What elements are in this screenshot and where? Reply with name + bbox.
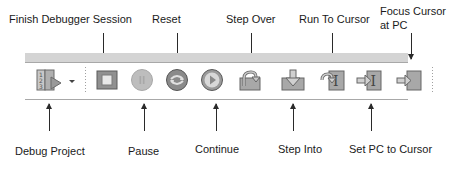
step-into-button[interactable] (280, 68, 306, 92)
label-finish-debugger-session: Finish Debugger Session (9, 13, 132, 26)
run-to-cursor-icon: I (318, 68, 346, 92)
play-icon (200, 68, 224, 92)
run-to-cursor-button[interactable]: I (318, 68, 346, 92)
label-reset: Reset (152, 13, 181, 26)
toolbar-bottom-border (25, 99, 408, 100)
reset-icon (165, 68, 189, 92)
label-continue: Continue (195, 143, 239, 156)
debug-project-button[interactable]: 1 2 3 (35, 68, 63, 92)
pause-button[interactable] (130, 68, 154, 92)
focus-cursor-icon (395, 68, 423, 92)
label-step-over: Step Over (226, 13, 276, 26)
arrow-debug-project (49, 104, 50, 131)
arrow-set-pc (371, 104, 372, 131)
toolbar-header-strip (25, 53, 408, 63)
focus-cursor-at-pc-button[interactable] (395, 68, 423, 92)
chevron-down-icon (68, 68, 76, 92)
svg-text:3: 3 (39, 83, 43, 90)
step-over-button[interactable] (237, 68, 263, 92)
debug-project-dropdown[interactable] (68, 68, 76, 92)
label-debug-project: Debug Project (15, 145, 85, 158)
arrow-focus-cursor (411, 33, 412, 59)
finish-debugger-session-button[interactable] (95, 68, 119, 92)
label-focus-cursor-at-pc: at PC (380, 19, 408, 32)
arrow-step-into (293, 104, 294, 131)
pause-icon (130, 68, 154, 92)
label-run-to-cursor: Run To Cursor (299, 13, 370, 26)
step-into-icon (280, 68, 306, 92)
debug-project-icon: 1 2 3 (35, 68, 63, 92)
label-set-pc-to-cursor: Set PC to Cursor (349, 143, 432, 156)
label-step-into: Step Into (278, 143, 322, 156)
svg-text:I: I (371, 73, 377, 89)
set-pc-icon: I (355, 68, 383, 92)
label-focus-cursor: Focus Cursor (380, 5, 446, 18)
arrow-continue (216, 104, 217, 131)
arrow-pause (144, 104, 145, 131)
reset-button[interactable] (165, 68, 189, 92)
toolbar-end-separator (432, 67, 433, 93)
stop-square-icon (95, 68, 119, 92)
continue-button[interactable] (200, 68, 224, 92)
set-pc-to-cursor-button[interactable]: I (355, 68, 383, 92)
label-pause: Pause (128, 145, 159, 158)
step-over-icon (237, 68, 263, 92)
toolbar-separator (85, 67, 86, 93)
